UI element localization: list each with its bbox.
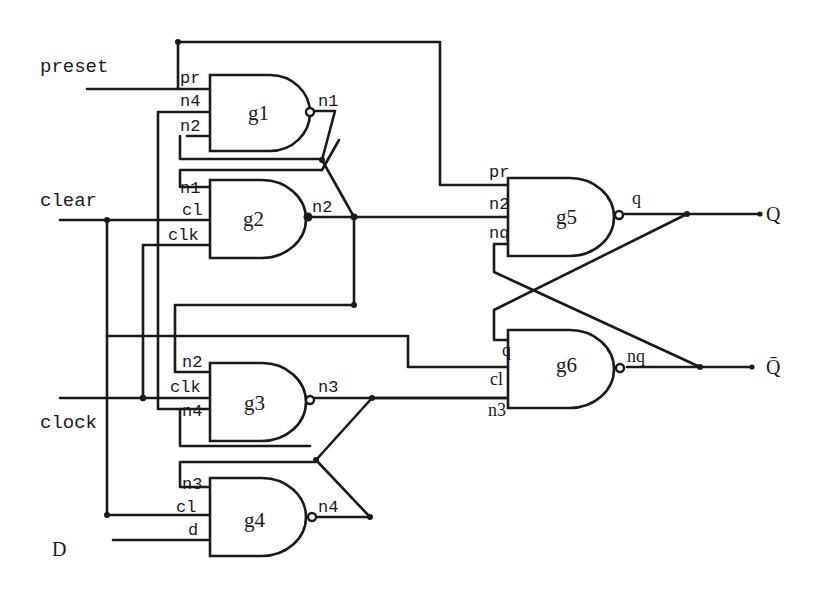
wires (60, 42, 760, 540)
svg-text:n3: n3 (182, 475, 202, 494)
svg-text:cl: cl (176, 498, 196, 517)
svg-text:q: q (502, 340, 511, 360)
svg-text:n1: n1 (318, 92, 338, 111)
svg-text:g5: g5 (556, 205, 577, 229)
svg-text:g2: g2 (243, 207, 264, 231)
svg-text:nq: nq (489, 224, 509, 243)
input-label-d: D (52, 538, 66, 560)
svg-text:n2: n2 (489, 195, 509, 214)
svg-text:g4: g4 (244, 508, 266, 532)
gate-g6: g6 q cl n3 nq (488, 330, 645, 420)
svg-text:n2: n2 (312, 198, 332, 217)
svg-text:clk: clk (168, 226, 199, 245)
svg-text:n4: n4 (180, 92, 200, 111)
input-label-preset: preset (40, 56, 108, 78)
gate-g1: g1 pr n4 n2 n1 (180, 69, 338, 151)
svg-text:nq: nq (627, 346, 645, 366)
svg-text:cl: cl (182, 201, 202, 220)
input-label-clear: clear (40, 190, 97, 212)
svg-text:clk: clk (170, 378, 201, 397)
svg-text:d: d (188, 521, 198, 540)
gate-g5: g5 pr n2 nq q (489, 163, 641, 256)
svg-text:pr: pr (489, 163, 509, 182)
svg-text:cl: cl (490, 369, 503, 389)
svg-text:n2: n2 (182, 353, 202, 372)
svg-text:n3: n3 (488, 400, 506, 420)
input-label-clock: clock (40, 412, 97, 434)
output-label-q: Q (766, 203, 781, 225)
flip-flop-schematic: preset clear clock D (0, 0, 821, 596)
svg-text:g3: g3 (244, 391, 265, 415)
svg-text:g6: g6 (556, 353, 577, 377)
svg-text:n4: n4 (318, 498, 338, 517)
svg-text:g1: g1 (248, 101, 269, 125)
svg-text:pr: pr (180, 69, 200, 88)
svg-text:q: q (632, 188, 641, 208)
svg-text:n3: n3 (318, 378, 338, 397)
svg-text:n1: n1 (180, 179, 200, 198)
svg-text:n4: n4 (182, 402, 202, 421)
output-label-qbar: Q̄ (766, 356, 781, 378)
svg-text:n2: n2 (180, 117, 200, 136)
